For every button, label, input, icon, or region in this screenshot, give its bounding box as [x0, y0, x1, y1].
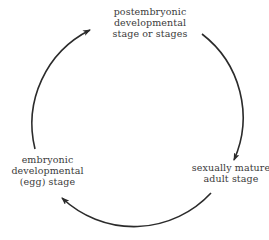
stage-label-line: developmental	[95, 17, 205, 28]
stage-label-line: adult stage	[186, 173, 269, 184]
stage-label-line: postembryonic	[95, 6, 205, 17]
stage-label-line: (egg) stage	[0, 176, 95, 187]
stage-label-embryonic: embryonic developmental (egg) stage	[0, 154, 95, 187]
stage-label-line: embryonic	[0, 154, 95, 165]
arrow-embryonic-to-postembryonic	[32, 30, 90, 149]
stage-label-line: stage or stages	[95, 28, 205, 39]
stage-label-line: sexually mature	[186, 162, 269, 173]
stage-label-line: developmental	[0, 165, 95, 176]
stage-label-postembryonic: postembryonic developmental stage or sta…	[95, 6, 205, 39]
arrow-postembryonic-to-adult	[202, 34, 243, 160]
arrow-adult-to-embryonic	[62, 193, 211, 227]
stage-label-adult: sexually mature adult stage	[186, 162, 269, 184]
